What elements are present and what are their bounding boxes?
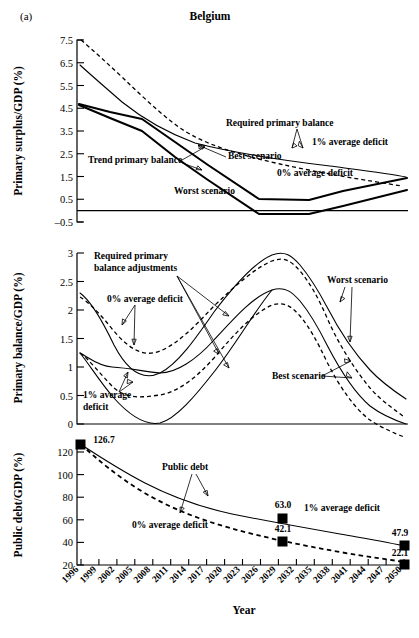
panel2-ytick-3: 1.5 [60, 334, 73, 345]
panel3-annot-0pct-deficit: 0% average deficit [132, 520, 209, 530]
panel2-arrow-1pct-a [124, 372, 128, 378]
panel3-marker-2050-dashed [400, 560, 409, 569]
panel2-annot-0pct-deficit: 0% average deficit [107, 294, 184, 304]
panel3-xtick-16: 2044 [347, 564, 368, 585]
panel2-annot-1pct-deficit-line2: deficit [83, 402, 109, 412]
panel1-annot-1pct-deficit: 1% average deficit [312, 137, 389, 147]
panel3-xtick-12: 2032 [275, 564, 296, 585]
panel3-marker-2030-solid [278, 514, 287, 523]
panel3-xtick-8: 2020 [204, 564, 225, 585]
panel1-ytick-3: 4.5 [60, 103, 73, 114]
panel2-ytick-6: 0 [68, 419, 73, 430]
panel3-xtick-9: 2023 [221, 564, 242, 585]
panel2-y-tick-labels: 3 2.5 2 1.5 1 0.5 0 [60, 248, 73, 430]
panel-primary-balance: Primary balance/GDP (%) 3 2.5 2 1.5 1 0.… [12, 248, 408, 437]
panel3-xtick-4: 2008 [132, 564, 153, 585]
panel2-ytick-2: 2 [68, 305, 73, 316]
panel3-ytick-0: 120 [57, 447, 73, 458]
panel2-arrow-worst-a [340, 296, 345, 302]
panel1-ytick-1: 6.5 [60, 58, 73, 69]
panel1-ytick-4: 3.5 [60, 126, 73, 137]
panel3-arrow-public-debt-a [203, 490, 208, 496]
panel3-marker-1996 [76, 440, 85, 449]
panel-tag: (a) [20, 10, 33, 23]
panel1-ytick-5: 2.5 [60, 149, 73, 160]
panel2-ytick-1: 2.5 [60, 277, 73, 288]
panel1-ytick-8: –0.5 [54, 217, 73, 228]
panel3-xtick-11: 2029 [257, 564, 278, 585]
panel3-y-axis-title: Public debt/GDP (%) [12, 452, 25, 557]
panel1-annot-worst-scenario: Worst scenario [174, 186, 235, 196]
panel1-y-axis-title: Primary surplus/GDP (%) [12, 66, 25, 196]
panel3-annot-1pct-deficit: 1% average deficit [304, 503, 381, 513]
panel1-annot-required-primary-balance: Required primary balance [226, 118, 334, 128]
figure-container: (a) Belgium Primary surplus/GDP (%) 7.5 … [0, 0, 419, 638]
panel1-annot-trend-primary-balance: Trend primary balance [88, 155, 182, 165]
panel3-label-end-solid: 47.9 [392, 528, 409, 538]
panel3-ytick-3: 60 [63, 515, 74, 526]
panel2-ytick-0: 3 [68, 248, 73, 259]
panel3-ytick-2: 80 [63, 492, 74, 503]
panel3-ytick-1: 100 [57, 470, 73, 481]
panel3-y-ticks [77, 452, 84, 565]
panel3-xtick-6: 2014 [168, 564, 189, 585]
chart-title: Belgium [190, 10, 231, 23]
panel3-xtick-15: 2041 [329, 564, 350, 585]
panel3-ytick-4: 40 [63, 537, 74, 548]
panel3-label-mid-dashed: 42.1 [275, 524, 292, 534]
panel2-annot-1pct-deficit-line1: 1% average [83, 390, 131, 400]
panel1-ytick-0: 7.5 [60, 35, 73, 46]
panel1-y-tick-labels: 7.5 6.5 5.5 4.5 3.5 2.5 1.5 0.5 –0.5 [54, 35, 73, 228]
panel3-label-end-dashed: 22.1 [392, 548, 409, 558]
panel2-annot-best-scenario: Best scenario [272, 371, 326, 381]
panel1-annot-0pct-deficit: 0% average deficit [277, 168, 354, 178]
panel3-annot-public-debt: Public debt [162, 462, 209, 472]
panel3-x-ticks [81, 559, 404, 565]
panel-primary-surplus: Primary surplus/GDP (%) 7.5 6.5 5.5 4.5 … [12, 35, 408, 228]
panel3-xtick-7: 2017 [186, 564, 207, 585]
panel1-ytick-6: 1.5 [60, 172, 73, 183]
panel2-ytick-5: 0.5 [60, 391, 73, 402]
panel1-ytick-7: 0.5 [60, 194, 73, 205]
panel2-series-best-1pct [80, 289, 406, 424]
panel1-ytick-2: 5.5 [60, 81, 73, 92]
panel3-label-mid-solid: 63.0 [275, 500, 292, 510]
panel3-xtick-10: 2026 [239, 564, 260, 585]
panel3-xtick-5: 2011 [150, 564, 170, 584]
panel2-arrow-best-b [346, 372, 352, 378]
panel3-xtick-17: 2047 [365, 564, 386, 585]
panel2-annot-worst-scenario: Worst scenario [327, 275, 388, 285]
panel3-xtick-14: 2038 [311, 564, 332, 585]
panel3-x-tick-labels: 1996 1999 2002 2005 2008 2011 2014 2017 … [60, 564, 404, 585]
panel3-label-start: 126.7 [93, 435, 115, 445]
panel3-marker-2030-dashed [278, 537, 287, 546]
panel2-y-axis-title: Primary balance/GDP (%) [12, 272, 25, 403]
panel-public-debt: Public debt/GDP (%) 120 100 80 60 40 20 [12, 435, 409, 616]
panel3-xtick-1: 1999 [78, 564, 99, 585]
panel2-annot-required-adjustments-line1: Required primary [94, 251, 168, 261]
panel2-leader-adjust [177, 276, 229, 368]
panel2-leader-1pct [119, 372, 133, 392]
panel3-xtick-2: 2002 [96, 564, 117, 585]
panel2-arrow-adjust-b [224, 362, 229, 368]
panel3-y-tick-labels: 120 100 80 60 40 20 [57, 447, 73, 571]
panel2-ytick-4: 1 [68, 362, 73, 373]
panel2-annot-required-adjustments-line2: balance adjustments [94, 263, 177, 273]
panel3-xtick-13: 2035 [293, 564, 314, 585]
panel3-xtick-3: 2005 [114, 564, 135, 585]
panel3-x-axis-title: Year [233, 604, 256, 616]
panel2-series-best-0pct [80, 304, 404, 437]
belgium-fiscal-projection-figure: (a) Belgium Primary surplus/GDP (%) 7.5 … [0, 0, 419, 638]
panel1-annot-best-scenario: Best scenario [228, 151, 282, 161]
